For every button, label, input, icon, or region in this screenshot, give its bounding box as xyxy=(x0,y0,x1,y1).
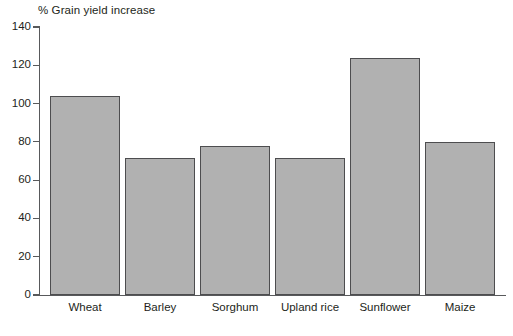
x-axis-category-label: Maize xyxy=(425,301,495,314)
y-axis-tick-mark xyxy=(33,218,40,219)
x-axis-category-label: Sunflower xyxy=(350,301,420,314)
y-axis-tick-mark xyxy=(33,141,40,142)
chart-title: % Grain yield increase xyxy=(38,4,155,16)
bar xyxy=(50,96,120,295)
plot-area xyxy=(40,27,505,295)
y-axis-tick-label: 0 xyxy=(0,289,31,301)
x-axis-category-label: Wheat xyxy=(50,301,120,314)
y-axis-tick-mark xyxy=(33,103,40,104)
x-axis-category-label: Sorghum xyxy=(200,301,270,314)
y-axis-tick-label: 80 xyxy=(0,136,31,148)
y-axis-tick-label: 120 xyxy=(0,59,31,71)
y-axis-tick-mark xyxy=(33,26,40,27)
y-axis-tick-mark xyxy=(33,180,40,181)
x-axis-category-label: Barley xyxy=(125,301,195,314)
bar xyxy=(200,146,270,295)
x-axis-category-label: Upland rice xyxy=(275,301,345,314)
y-axis-tick-mark xyxy=(33,65,40,66)
y-axis-tick-mark xyxy=(33,294,40,295)
bar xyxy=(350,58,420,295)
y-axis-tick-mark xyxy=(33,256,40,257)
y-axis-tick-label: 140 xyxy=(0,21,31,33)
bar xyxy=(125,158,195,295)
y-axis-tick-label: 20 xyxy=(0,251,31,263)
y-axis-tick-label: 100 xyxy=(0,98,31,110)
bar-chart: % Grain yield increase 02040608010012014… xyxy=(0,0,513,336)
bar xyxy=(275,158,345,295)
bar xyxy=(425,142,495,295)
y-axis-tick-label: 60 xyxy=(0,174,31,186)
y-axis-tick-label: 40 xyxy=(0,212,31,224)
